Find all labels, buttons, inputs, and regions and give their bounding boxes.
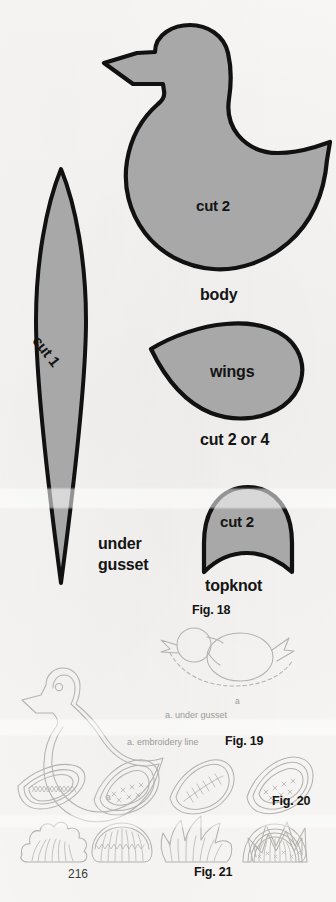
fig20-paisley-2 (94, 760, 159, 815)
figure-diagrams-layer: a (0, 0, 336, 902)
topknot-part-label: topknot (205, 578, 262, 594)
wings-part-label: cut 2 or 4 (200, 432, 269, 448)
under-gusset-part-label-line2: gusset (98, 557, 148, 573)
caption-under-gusset: a. under gusset (165, 711, 227, 720)
fig21-label: Fig. 21 (194, 866, 232, 879)
wings-cut-label: wings (210, 364, 254, 380)
fig21-topknot-1 (21, 822, 87, 862)
page-number: 216 (68, 868, 88, 880)
caption-embroidery-line: a. embroidery line (127, 738, 199, 747)
fig18-marker-a: a (235, 697, 240, 706)
pattern-page: a (0, 0, 336, 902)
fig20-paisley-3 (170, 760, 234, 814)
fig21-topknot-2 (92, 823, 152, 862)
body-part-label: body (200, 287, 237, 303)
fig20-label: Fig. 20 (272, 795, 310, 808)
fig20-paisley-1 (18, 764, 85, 809)
fig18-label: Fig. 18 (192, 604, 230, 617)
under-gusset-part-label-line1: under (98, 536, 141, 552)
fig21-topknot-3 (161, 816, 231, 862)
fig19-label: Fig. 19 (225, 735, 263, 748)
topknot-cut-label: cut 2 (220, 514, 254, 529)
body-cut-label: cut 2 (196, 198, 230, 213)
fig18-diagram (161, 628, 294, 686)
